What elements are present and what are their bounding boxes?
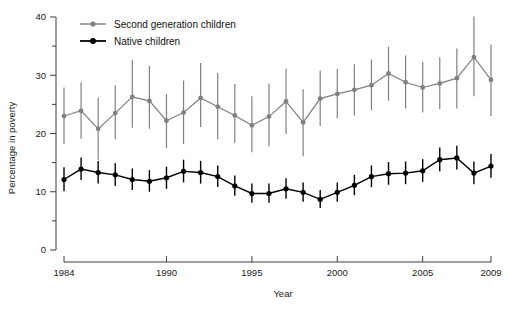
data-point — [61, 177, 66, 182]
data-point — [130, 94, 135, 99]
data-point — [437, 157, 442, 162]
data-point — [266, 191, 271, 196]
data-point — [147, 98, 152, 103]
y-axis-tick-label: 10 — [35, 186, 46, 197]
data-point — [335, 190, 340, 195]
data-point — [164, 118, 169, 123]
data-point — [78, 166, 83, 171]
data-point — [96, 170, 101, 175]
x-axis-tick-label: 2000 — [327, 267, 348, 278]
data-point — [181, 169, 186, 174]
x-axis-tick-label: 2005 — [412, 267, 433, 278]
data-point — [386, 71, 391, 76]
x-axis-tick-label: 1990 — [156, 267, 177, 278]
y-axis-tick-label: 0 — [41, 244, 46, 255]
data-point — [352, 87, 357, 92]
data-point — [420, 85, 425, 90]
data-point — [232, 113, 237, 118]
data-point — [79, 108, 84, 113]
data-point — [113, 111, 118, 116]
data-point — [386, 171, 391, 176]
x-axis-tick-label: 1995 — [241, 267, 262, 278]
y-axis-tick-label: 20 — [35, 128, 46, 139]
x-axis-tick-label: 1984 — [53, 267, 74, 278]
legend-label-1: Native children — [114, 36, 180, 47]
data-point — [403, 171, 408, 176]
data-point — [489, 78, 494, 83]
legend-label-0: Second generation children — [114, 19, 236, 30]
data-point — [369, 83, 374, 88]
chart-canvas: 010203040 198419901995200020052009 Secon… — [0, 0, 509, 323]
data-point — [147, 179, 152, 184]
data-point — [249, 191, 254, 196]
data-point — [249, 123, 254, 128]
data-point — [301, 190, 306, 195]
data-point — [301, 120, 306, 125]
data-point — [335, 91, 340, 96]
poverty-line-chart: 010203040 198419901995200020052009 Secon… — [0, 0, 509, 323]
data-point — [352, 183, 357, 188]
legend-marker-0 — [90, 21, 95, 26]
data-point — [369, 174, 374, 179]
data-point — [267, 114, 272, 119]
data-point — [454, 155, 459, 160]
legend-marker-1 — [90, 38, 96, 44]
data-point — [198, 170, 203, 175]
data-point — [181, 110, 186, 115]
data-point — [437, 81, 442, 86]
data-point — [283, 186, 288, 191]
data-point — [232, 183, 237, 188]
data-point — [62, 114, 67, 119]
x-axis-tick-label: 2009 — [480, 267, 501, 278]
data-point — [198, 96, 203, 101]
data-point — [403, 80, 408, 85]
x-axis-title: Year — [273, 288, 292, 299]
data-point — [113, 172, 118, 177]
data-point — [284, 99, 289, 104]
data-point — [96, 126, 101, 131]
y-axis-title: Percentage in poverty — [6, 102, 17, 195]
data-point — [130, 177, 135, 182]
data-point — [454, 76, 459, 81]
data-point — [472, 55, 477, 60]
data-point — [164, 175, 169, 180]
data-point — [318, 197, 323, 202]
data-point — [215, 104, 220, 109]
y-axis-tick-label: 40 — [35, 11, 46, 22]
data-point — [318, 96, 323, 101]
data-point — [488, 164, 493, 169]
data-point — [420, 168, 425, 173]
data-point — [471, 171, 476, 176]
data-point — [215, 174, 220, 179]
y-axis-tick-label: 30 — [35, 70, 46, 81]
